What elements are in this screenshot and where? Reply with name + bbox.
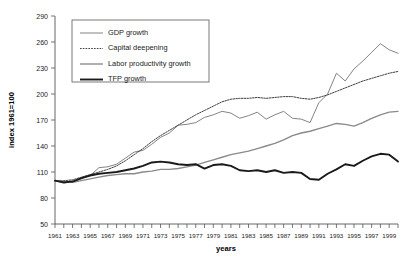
- x-tick-label: 1993: [330, 232, 344, 239]
- y-tick-label: 110: [37, 169, 48, 176]
- series-line-tfp-growth: [55, 154, 398, 183]
- y-tick-label: 170: [36, 117, 48, 124]
- y-tick-group: 5080110140170200230260290: [36, 13, 55, 228]
- x-tick-label: 1987: [277, 232, 291, 239]
- chart-container: 5080110140170200230260290 19611963196519…: [0, 0, 418, 258]
- y-tick-label: 290: [36, 13, 48, 20]
- x-tick-label: 1973: [154, 232, 168, 239]
- x-tick-label: 1989: [294, 232, 308, 239]
- x-tick-label: 1967: [101, 232, 115, 239]
- x-tick-label: 1997: [365, 232, 379, 239]
- x-tick-label: 1961: [48, 232, 62, 239]
- x-tick-label: 1963: [66, 232, 80, 239]
- legend-label-labor-productivity-growth: Labor productivity growth: [108, 59, 191, 68]
- y-axis-title: index 1961=100: [7, 92, 16, 148]
- y-tick-label: 140: [36, 143, 48, 150]
- x-tick-label-group: 1961196319651967196919711973197519771979…: [48, 232, 397, 239]
- x-tick-label: 1975: [171, 232, 185, 239]
- y-tick-label: 80: [40, 195, 48, 202]
- x-tick-group: [55, 224, 398, 228]
- x-axis: 1961196319651967196919711973197519771979…: [48, 224, 398, 239]
- x-tick-label: 1971: [136, 232, 150, 239]
- x-tick-label: 1965: [83, 232, 97, 239]
- x-tick-label: 1979: [206, 232, 220, 239]
- x-tick-label: 1981: [224, 232, 238, 239]
- y-axis: 5080110140170200230260290: [36, 13, 55, 228]
- y-tick-label: 200: [36, 91, 48, 98]
- legend: GDP growthCapital deepeningLabor product…: [72, 20, 209, 83]
- legend-label-tfp-growth: TFP growth: [108, 74, 146, 83]
- x-tick-label: 1983: [242, 232, 256, 239]
- x-axis-title: years: [216, 244, 236, 253]
- y-tick-label: 260: [36, 39, 48, 46]
- x-tick-label: 1991: [312, 232, 326, 239]
- legend-label-gdp-growth: GDP growth: [108, 28, 148, 37]
- x-tick-label: 1977: [189, 232, 203, 239]
- series-line-labor-productivity-growth: [55, 111, 398, 182]
- y-tick-label: 50: [40, 221, 48, 228]
- x-tick-label: 1995: [347, 232, 361, 239]
- x-tick-label: 1985: [259, 232, 273, 239]
- legend-label-capital-deepening: Capital deepening: [108, 43, 168, 52]
- x-tick-label: 1999: [382, 232, 396, 239]
- y-tick-label: 230: [36, 65, 48, 72]
- line-chart: 5080110140170200230260290 19611963196519…: [0, 0, 418, 258]
- x-tick-label: 1969: [118, 232, 132, 239]
